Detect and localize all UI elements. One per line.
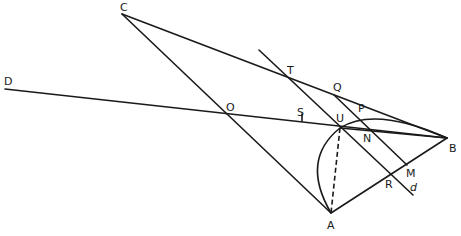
- label-M: M: [406, 167, 416, 180]
- label-T: T: [286, 64, 294, 77]
- label-A: A: [327, 219, 335, 232]
- label-C: C: [120, 1, 128, 14]
- arc-AU: [317, 128, 340, 213]
- label-D: D: [4, 75, 12, 88]
- label-R: R: [385, 178, 393, 191]
- line-AB: [331, 138, 447, 213]
- line-UB: [340, 128, 447, 138]
- label-N: N: [363, 132, 371, 145]
- label-S: S: [297, 106, 304, 119]
- label-O: O: [226, 101, 235, 114]
- label-P: P: [358, 102, 365, 115]
- label-d: d: [410, 181, 418, 194]
- geometry-diagram: C D O S T Q P U N B M R d A: [0, 0, 461, 236]
- label-Q: Q: [333, 81, 342, 94]
- label-U: U: [336, 112, 344, 125]
- label-B: B: [449, 142, 457, 155]
- dashed-line-UA: [331, 128, 340, 213]
